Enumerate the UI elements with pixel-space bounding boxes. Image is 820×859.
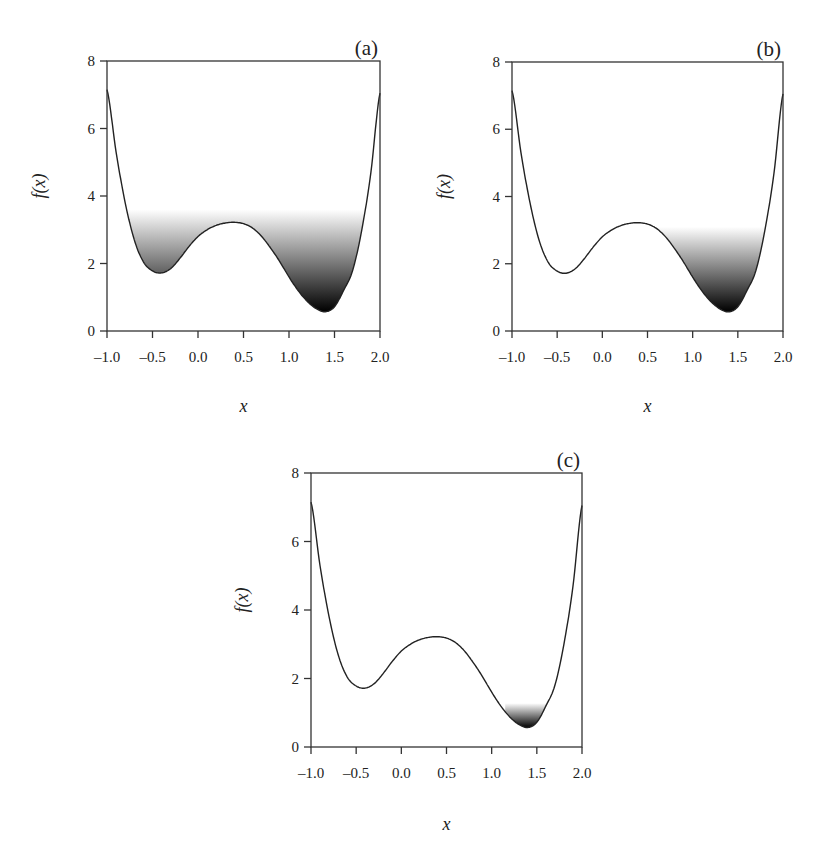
y-tick-label: 2 <box>292 671 300 687</box>
y-tick-label: 4 <box>292 602 300 618</box>
x-tick-label: 0.0 <box>593 349 612 365</box>
x-tick-label: –0.5 <box>342 765 369 781</box>
y-tick-label: 4 <box>88 188 96 204</box>
function-curve <box>311 502 582 727</box>
figure: 02468–1.0–0.50.00.51.01.52.0xf(x)(a) 024… <box>0 0 820 859</box>
y-tick-label: 8 <box>493 54 501 70</box>
y-tick-label: 6 <box>292 534 300 550</box>
x-tick-label: 1.5 <box>527 765 546 781</box>
x-axis-label: x <box>239 396 248 416</box>
x-tick-label: 0.0 <box>392 765 411 781</box>
panel-label: (a) <box>355 36 378 60</box>
y-tick-label: 8 <box>88 53 96 69</box>
panel-b: 02468–1.0–0.50.00.51.01.52.0xf(x)(b) <box>434 37 792 416</box>
x-tick-label: –1.0 <box>297 765 324 781</box>
x-tick-label: 1.0 <box>482 765 501 781</box>
shaded-region <box>657 227 765 312</box>
x-tick-label: 2.0 <box>774 349 793 365</box>
x-tick-label: –0.5 <box>543 349 570 365</box>
y-axis-label: f(x) <box>29 174 50 199</box>
y-tick-label: 2 <box>88 256 96 272</box>
x-axis-label: x <box>442 814 451 834</box>
y-tick-label: 6 <box>88 121 96 137</box>
y-tick-label: 6 <box>493 121 501 137</box>
x-tick-label: 0.0 <box>189 349 208 365</box>
x-tick-label: 0.5 <box>437 765 456 781</box>
x-tick-label: 1.5 <box>325 349 344 365</box>
x-tick-label: 2.0 <box>371 349 390 365</box>
x-tick-label: –1.0 <box>498 349 525 365</box>
x-tick-label: 1.0 <box>280 349 299 365</box>
panel-label: (b) <box>757 37 782 61</box>
x-tick-label: 0.5 <box>234 349 253 365</box>
panel-a: 02468–1.0–0.50.00.51.01.52.0xf(x)(a) <box>29 36 389 416</box>
y-axis-label: f(x) <box>232 588 253 613</box>
x-tick-label: 1.5 <box>728 349 747 365</box>
y-tick-label: 8 <box>292 465 300 481</box>
x-tick-label: 2.0 <box>573 765 592 781</box>
x-tick-label: 0.5 <box>638 349 657 365</box>
y-tick-label: 0 <box>493 323 501 339</box>
y-tick-label: 0 <box>88 323 96 339</box>
y-tick-label: 0 <box>292 739 300 755</box>
y-axis-label: f(x) <box>434 174 455 199</box>
x-tick-label: –0.5 <box>138 349 165 365</box>
y-tick-label: 2 <box>493 256 501 272</box>
x-tick-label: –1.0 <box>93 349 120 365</box>
x-axis-label: x <box>643 396 652 416</box>
panel-label: (c) <box>557 448 580 472</box>
x-tick-label: 1.0 <box>683 349 702 365</box>
panel-c: 02468–1.0–0.50.00.51.01.52.0xf(x)(c) <box>232 448 591 834</box>
y-tick-label: 4 <box>493 189 501 205</box>
